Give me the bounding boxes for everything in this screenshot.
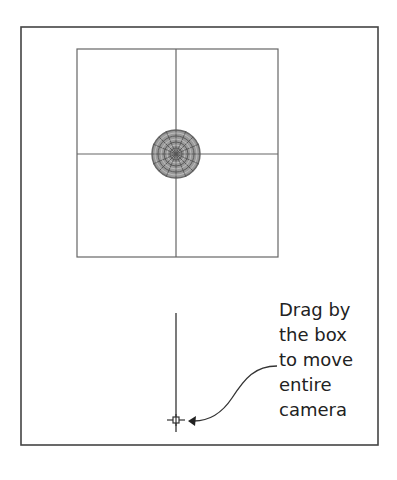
callout-line: camera xyxy=(279,397,353,422)
callout-arrow-icon xyxy=(188,366,277,426)
target-sphere-icon[interactable] xyxy=(152,130,200,178)
camera-diagram: Drag by the box to move entire camera xyxy=(0,0,397,480)
callout-line: entire xyxy=(279,372,353,397)
callout-line: Drag by xyxy=(279,297,353,322)
callout-line: the box xyxy=(279,322,353,347)
camera-box-handle-icon[interactable] xyxy=(167,414,185,426)
callout-line: to move xyxy=(279,347,353,372)
callout-text: Drag by the box to move entire camera xyxy=(279,297,353,422)
